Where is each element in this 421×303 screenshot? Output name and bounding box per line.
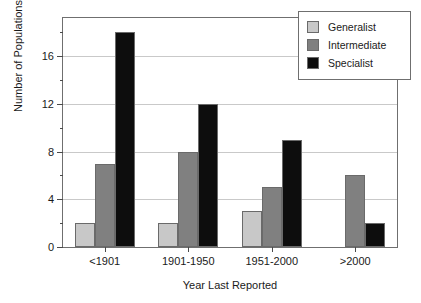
x-axis-tick (105, 247, 106, 252)
y-axis-tick-label: 16 (42, 51, 54, 62)
bar-generalist-0 (75, 223, 95, 247)
legend-label: Intermediate (328, 39, 386, 51)
y-axis-tick-major (57, 56, 63, 57)
x-axis-tick-label: 1951-2000 (245, 256, 298, 267)
bar-intermediate-1 (178, 152, 198, 247)
x-axis-tick (188, 247, 189, 252)
y-axis-tick-major (57, 152, 63, 153)
x-axis-tick-label: >2000 (340, 256, 371, 267)
y-axis-tick-label: 0 (48, 242, 54, 253)
y-axis-tick-minor (60, 32, 63, 33)
legend-item[interactable]: Generalist (307, 18, 403, 36)
y-axis-tick-label: 8 (48, 146, 54, 157)
bar-intermediate-0 (95, 164, 115, 247)
bar-intermediate-2 (262, 187, 282, 247)
y-axis-title: Number of Populations (12, 0, 24, 156)
y-axis-tick-minor (60, 223, 63, 224)
bar-chart-figure: Number of Populations 0481216<19011901-1… (0, 0, 421, 303)
bar-intermediate-3 (345, 175, 365, 247)
legend-label: Generalist (328, 21, 376, 33)
legend-swatch-icon (307, 57, 319, 69)
legend-label: Specialist (328, 57, 373, 69)
y-axis-tick-label: 12 (42, 98, 54, 109)
bar-specialist-0 (115, 32, 135, 247)
legend-swatch-icon (307, 21, 319, 33)
x-axis-tick-label: 1901-1950 (162, 256, 215, 267)
bar-specialist-2 (282, 140, 302, 247)
chart-legend: GeneralistIntermediateSpecialist (298, 11, 411, 80)
legend-item[interactable]: Intermediate (307, 36, 403, 54)
y-axis-tick-minor (60, 80, 63, 81)
y-axis-tick-minor (60, 175, 63, 176)
bar-generalist-2 (242, 211, 262, 247)
legend-swatch-icon (307, 39, 319, 51)
x-axis-tick (355, 247, 356, 252)
y-axis-tick-label: 4 (48, 194, 54, 205)
y-axis-tick-major (57, 247, 63, 248)
x-axis-tick-label: <1901 (89, 256, 120, 267)
bar-generalist-1 (158, 223, 178, 247)
bar-specialist-1 (198, 104, 218, 247)
x-axis-tick (272, 247, 273, 252)
y-axis-tick-minor (60, 128, 63, 129)
y-axis-tick-major (57, 104, 63, 105)
bar-specialist-3 (365, 223, 385, 247)
x-axis-title: Year Last Reported (62, 279, 398, 291)
legend-item[interactable]: Specialist (307, 54, 403, 72)
y-axis-tick-major (57, 199, 63, 200)
